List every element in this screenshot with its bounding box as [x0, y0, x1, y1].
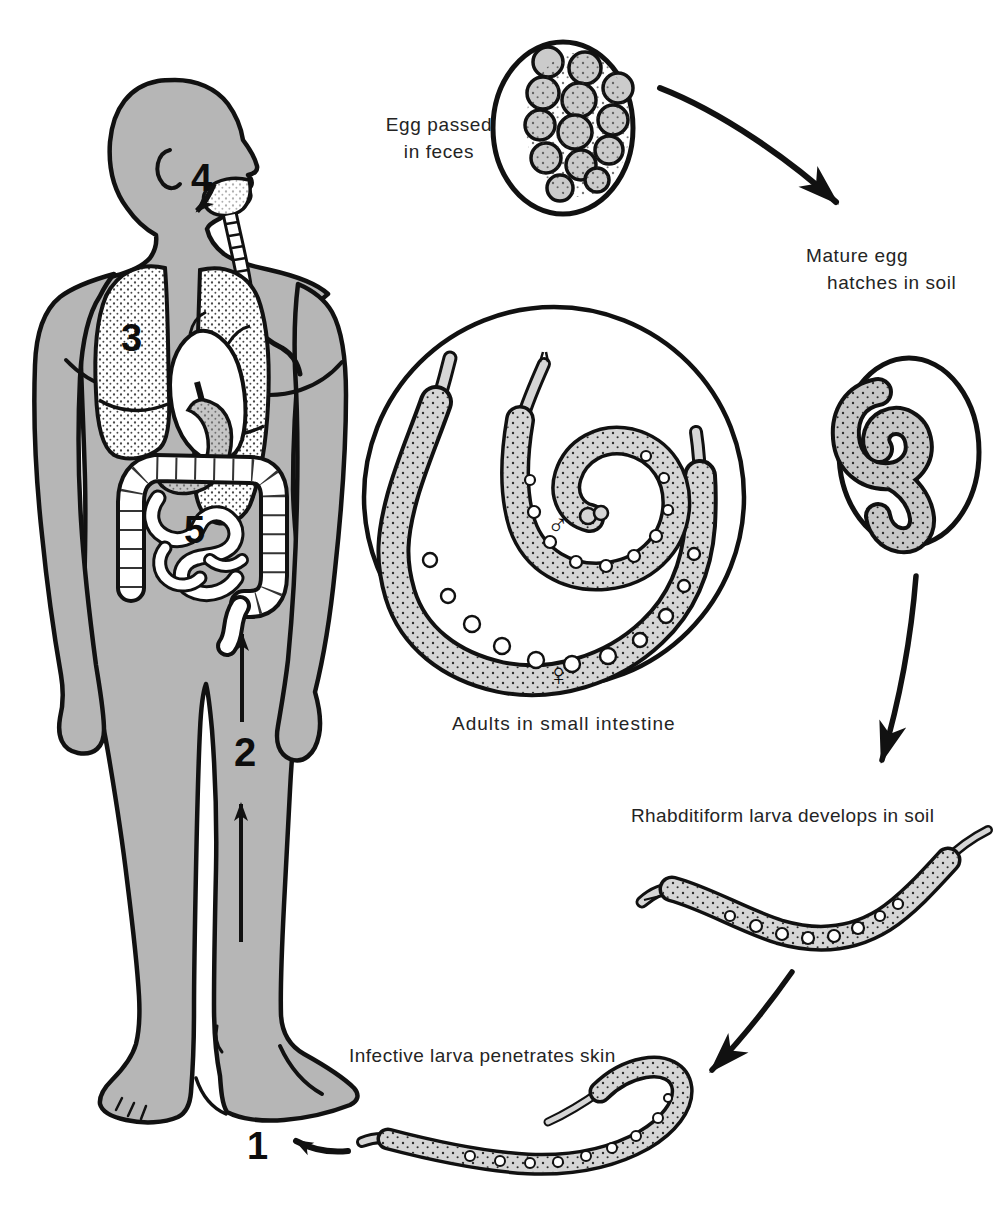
infective-larva-illustration: [362, 1067, 682, 1168]
male-symbol: ♂: [547, 511, 569, 540]
mature-egg-line2: hatches in soil: [827, 269, 956, 296]
stage-number-2: 2: [234, 732, 256, 772]
stage-number-1: 1: [247, 1127, 268, 1165]
adult-worms-circle: [364, 307, 744, 687]
mature-egg-line1: Mature egg: [806, 245, 908, 266]
stage-number-4: 4: [191, 159, 212, 197]
egg-passed-line1: Egg passed: [386, 114, 492, 135]
mature-egg-label: Mature egg hatches in soil: [806, 242, 956, 296]
female-symbol: ♀: [547, 659, 570, 690]
stage-number-5: 5: [184, 511, 205, 549]
mature-egg-illustration: [839, 358, 979, 546]
egg-in-feces-illustration: [493, 42, 633, 214]
hookworm-life-cycle-diagram: Egg passed in feces Mature egg hatches i…: [0, 0, 1008, 1222]
diagram-artwork: [0, 0, 1008, 1222]
arrow-larva-to-foot: [296, 1141, 348, 1152]
arrow-rhabditiform-to-infective: [712, 972, 792, 1070]
infective-label: Infective larva penetrates skin: [349, 1042, 616, 1069]
rhabditiform-larva-illustration: [642, 830, 988, 944]
egg-passed-line2: in feces: [378, 138, 500, 165]
human-figure: [34, 80, 357, 1122]
egg-passed-label: Egg passed in feces: [378, 111, 500, 165]
rhabditiform-label: Rhabditiform larva develops in soil: [631, 802, 934, 829]
arrow-mature-egg-to-rhabditiform: [882, 576, 916, 760]
arrow-egg-to-mature-egg: [660, 88, 836, 202]
adults-label: Adults in small intestine: [452, 710, 676, 737]
stage-number-3: 3: [121, 319, 142, 357]
